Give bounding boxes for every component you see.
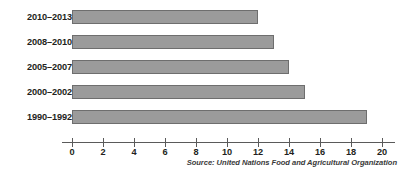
x-axis-tick-label: 4 [122,147,146,158]
bar-3 [72,85,305,99]
x-axis-tick [165,138,166,147]
x-axis-tick-label: 10 [215,147,239,158]
x-axis-tick-label: 16 [308,147,332,158]
bar-chart-figure: 2010–2013 2008–2010 2005–2007 2000–2002 [0,0,415,179]
x-axis-tick-label: 2 [91,147,115,158]
x-axis-tick-label: 14 [277,147,301,158]
bar-1 [72,35,274,49]
bar-track [72,85,395,99]
bar-4 [72,110,367,124]
x-axis: 02468101214161820 [0,136,415,160]
category-label: 2010–2013 [0,10,72,24]
bar-track [72,60,395,74]
category-label: 2000–2002 [0,85,72,99]
bar-row: 2005–2007 [0,60,415,74]
bar-row: 2010–2013 [0,10,415,24]
x-axis-tick [320,138,321,147]
bar-row: 1990–1992 [0,110,415,124]
plot-area: 2010–2013 2008–2010 2005–2007 2000–2002 [0,0,415,136]
x-axis-tick [103,138,104,147]
x-axis-line [62,142,395,143]
x-axis-tick [289,138,290,147]
x-axis-tick-label: 20 [370,147,394,158]
category-label: 2008–2010 [0,35,72,49]
x-axis-tick-label: 18 [339,147,363,158]
x-axis-tick-label: 12 [246,147,270,158]
bar-0 [72,10,258,24]
source-note: Source: United Nations Food and Agricult… [0,158,397,167]
x-axis-tick [196,138,197,147]
bar-2 [72,60,289,74]
x-axis-tick [227,138,228,147]
x-axis-tick [351,138,352,147]
x-axis-tick-label: 6 [153,147,177,158]
bar-row: 2008–2010 [0,35,415,49]
bar-row: 2000–2002 [0,85,415,99]
bar-track [72,35,395,49]
x-axis-tick [258,138,259,147]
x-axis-tick-label: 0 [60,147,84,158]
x-axis-tick [382,138,383,147]
x-axis-tick [72,138,73,147]
category-label: 2005–2007 [0,60,72,74]
bar-track [72,10,395,24]
x-axis-tick-label: 8 [184,147,208,158]
x-axis-tick [134,138,135,147]
bar-track [72,110,395,124]
category-label: 1990–1992 [0,110,72,124]
